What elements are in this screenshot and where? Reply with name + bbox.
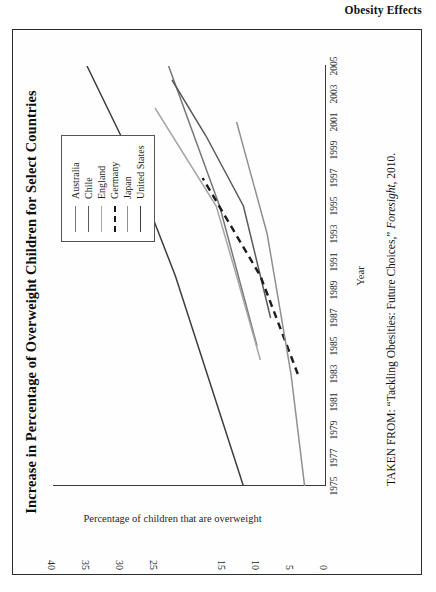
legend-item: Chile: [82, 145, 95, 232]
legend-item: United States: [134, 145, 147, 232]
x-tick-label: 2005: [329, 49, 339, 83]
legend-item: Germany: [108, 145, 121, 232]
legend-label: Germany: [109, 162, 120, 199]
y-axis-title: Percentage of children that are overweig…: [23, 513, 323, 524]
source-prefix: TAKEN FROM: “Tackling Obesities: Future …: [385, 229, 397, 486]
legend: AustraliaChileEnglandGermanyJapanUnited …: [61, 135, 155, 242]
x-axis-line: [325, 65, 326, 486]
figure-frame: Increase in Percentage of Overweight Chi…: [12, 29, 422, 575]
legend-label: England: [96, 166, 107, 199]
plot-area: [53, 66, 325, 486]
y-tick-label: 15: [216, 492, 227, 570]
rotated-figure-canvas: Increase in Percentage of Overweight Chi…: [17, 32, 417, 572]
y-tick-label: 35: [80, 492, 91, 570]
source-suffix: , 2010.: [385, 153, 397, 185]
legend-item: England: [95, 145, 108, 232]
legend-label: Chile: [83, 177, 94, 199]
series-lines: [53, 66, 325, 486]
series-line-united-states: [87, 66, 243, 486]
figure-inner: Increase in Percentage of Overweight Chi…: [17, 32, 417, 572]
x-axis-tick-labels: 1975197719791981198319851987198919911993…: [329, 66, 373, 486]
legend-line-swatch: [140, 206, 141, 232]
y-tick-label: 0: [318, 492, 329, 570]
source-italic: Foresight: [385, 184, 397, 228]
legend-line-swatch: [101, 206, 102, 232]
legend-line-swatch: [75, 206, 76, 232]
legend-line-swatch: [114, 206, 116, 232]
legend-line-swatch: [127, 206, 128, 232]
y-tick-label: 25: [148, 492, 159, 570]
legend-item: Japan: [121, 145, 134, 232]
y-tick-label: 5: [284, 492, 295, 570]
y-tick-label: 30: [114, 492, 125, 570]
legend-label: Japan: [122, 176, 133, 199]
y-tick-label: 40: [46, 492, 57, 570]
series-line-england: [155, 108, 260, 360]
running-head: Obesity Effects: [345, 4, 422, 16]
y-axis-tick-labels: 05101525303540: [53, 492, 326, 572]
source-credit: TAKEN FROM: “Tackling Obesities: Future …: [385, 56, 397, 486]
legend-label: United States: [135, 145, 146, 199]
chart-title: Increase in Percentage of Overweight Chi…: [23, 32, 40, 572]
legend-line-swatch: [88, 206, 89, 232]
x-axis-title: Year: [355, 66, 366, 486]
legend-item: Australia: [69, 145, 82, 232]
y-tick-label: 10: [250, 492, 261, 570]
legend-label: Australia: [70, 162, 81, 199]
